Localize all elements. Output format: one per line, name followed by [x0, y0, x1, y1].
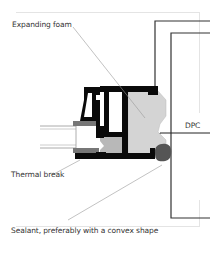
sealant-bead: [155, 144, 171, 162]
dpc-line: [158, 133, 210, 137]
glazing-gaskets: [73, 121, 99, 153]
leader-sealant: [68, 165, 162, 220]
label-sealant: Sealant, preferably with a convex shape: [11, 226, 158, 235]
label-thermal-break: Thermal break: [11, 170, 64, 179]
label-dpc: DPC: [185, 121, 200, 130]
window-section-diagram: Expanding foam DPC Thermal break Sealant…: [0, 0, 224, 256]
label-expanding-foam: Expanding foam: [12, 20, 72, 29]
glazing-unit: [40, 125, 76, 149]
